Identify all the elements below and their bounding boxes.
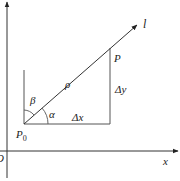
direction-derivative-diagram: O x l P ρ Δy Δx α β P0 (0, 0, 180, 181)
point-p0-label: P0 (15, 128, 27, 143)
point-p0-subscript: 0 (23, 134, 27, 143)
delta-x-label: Δx (71, 111, 83, 123)
ray-l (24, 25, 137, 124)
ray-label: l (143, 17, 147, 31)
rho-label: ρ (64, 78, 70, 90)
alpha-label: α (49, 108, 55, 120)
origin-label: O (0, 152, 4, 164)
beta-label: β (29, 94, 36, 106)
x-axis-label: x (162, 155, 168, 167)
beta-arc (24, 110, 34, 115)
alpha-arc (42, 108, 48, 124)
point-p-label: P (113, 52, 121, 64)
delta-y-label: Δy (114, 83, 126, 95)
